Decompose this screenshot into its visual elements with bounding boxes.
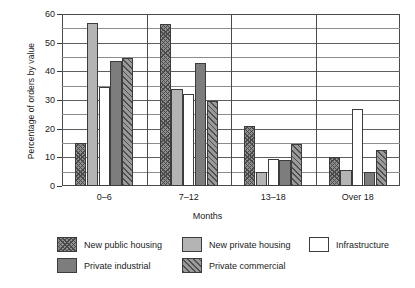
legend-item-new-private-housing: New private housing <box>182 237 291 252</box>
legend-label-new-public-housing: New public housing <box>84 240 162 250</box>
x-axis-label-0: 0–6 <box>97 192 112 202</box>
legend-item-private-industrial: Private industrial <box>57 258 151 273</box>
legend-item-new-public-housing: New public housing <box>57 237 162 252</box>
chart-legend: New public housing New private housing I… <box>57 237 405 279</box>
legend-label-infrastructure: Infrastructure <box>336 240 389 250</box>
bar-2-4 <box>291 144 302 186</box>
bar-1-4 <box>207 101 218 186</box>
legend-item-infrastructure: Infrastructure <box>309 237 389 252</box>
x-axis-label-1: 7–12 <box>179 192 199 202</box>
bar-0-1 <box>87 23 98 186</box>
x-axis-label-2: 13–18 <box>261 192 286 202</box>
bar-0-4 <box>122 58 133 186</box>
legend-row-1: New public housing New private housing I… <box>57 237 405 258</box>
y-tick-0 <box>57 186 62 187</box>
y-tick-label-0: 0 <box>50 181 55 191</box>
bar-3-0 <box>329 157 340 186</box>
y-axis-title: Percentage of orders by value <box>26 16 36 186</box>
legend-swatch-new-public-housing <box>57 237 77 252</box>
bar-1-3 <box>195 63 206 186</box>
legend-row-2: Private industrial Private commercial <box>57 258 405 279</box>
bar-1-2 <box>183 94 194 186</box>
bar-group-3 <box>316 14 401 186</box>
y-tick-label-10: 10 <box>45 152 55 162</box>
bar-3-3 <box>364 172 375 186</box>
y-tick-label-40: 40 <box>45 66 55 76</box>
y-tick-label-20: 20 <box>45 124 55 134</box>
bar-3-4 <box>376 150 387 186</box>
legend-swatch-new-private-housing <box>182 237 202 252</box>
bar-0-0 <box>75 143 86 186</box>
plot-area: 0102030405060 <box>62 14 400 186</box>
bar-2-3 <box>279 160 290 186</box>
bar-2-2 <box>268 159 279 186</box>
bar-group-1 <box>147 14 232 186</box>
legend-swatch-private-commercial <box>182 258 202 273</box>
legend-label-private-commercial: Private commercial <box>209 261 286 271</box>
y-tick-label-50: 50 <box>45 38 55 48</box>
x-axis-label-3: Over 18 <box>342 192 374 202</box>
bar-group-0 <box>62 14 147 186</box>
bar-0-3 <box>110 61 121 186</box>
bar-3-1 <box>340 170 351 186</box>
legend-item-private-commercial: Private commercial <box>182 258 286 273</box>
x-axis-title: Months <box>0 211 415 221</box>
legend-swatch-infrastructure <box>309 237 329 252</box>
legend-label-new-private-housing: New private housing <box>209 240 291 250</box>
bar-1-0 <box>160 24 171 186</box>
y-tick-label-60: 60 <box>45 9 55 19</box>
bar-1-1 <box>171 89 182 186</box>
legend-label-private-industrial: Private industrial <box>84 261 151 271</box>
bar-3-2 <box>352 109 363 186</box>
bar-group-2 <box>231 14 316 186</box>
bar-2-0 <box>244 126 255 186</box>
legend-swatch-private-industrial <box>57 258 77 273</box>
bar-2-1 <box>256 172 267 186</box>
bar-0-2 <box>99 87 110 186</box>
chart-container: Percentage of orders by value 0102030405… <box>0 0 415 288</box>
y-tick-label-30: 30 <box>45 95 55 105</box>
